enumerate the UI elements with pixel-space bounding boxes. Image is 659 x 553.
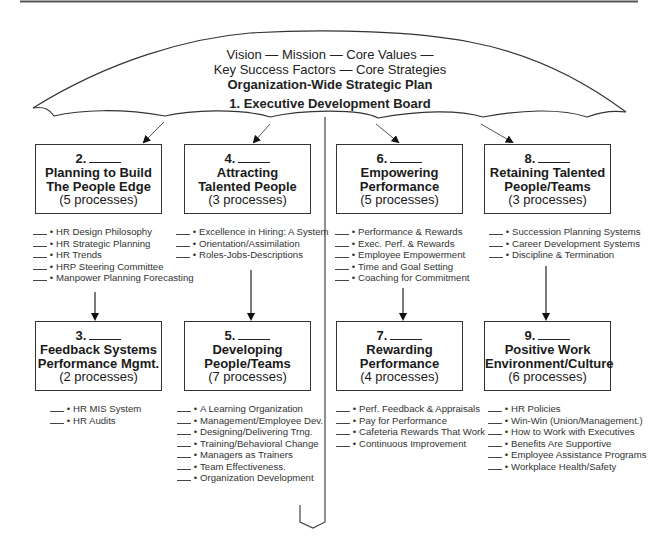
box-title-line-1: Developing: [185, 343, 310, 357]
checkbox-blank[interactable]: [488, 449, 502, 458]
box-5-developing: 5. Developing People/Teams (7 processes): [184, 321, 311, 391]
box-3-process-list: •HR MIS System •HR Audits: [50, 403, 141, 426]
checkbox-blank[interactable]: [177, 438, 191, 447]
list-item: •Team Effectiveness.: [177, 461, 323, 473]
checkbox-blank[interactable]: [336, 403, 350, 412]
list-item: •Exec. Perf. & Rewards: [335, 238, 469, 250]
checkbox-blank[interactable]: [33, 272, 47, 281]
list-item: •HRP Steering Committee: [33, 261, 194, 273]
blank-line[interactable]: [89, 151, 121, 163]
list-item: •Benefits Are Supportive: [488, 438, 646, 450]
list-item: •Orientation/Assimilation: [176, 238, 329, 250]
checkbox-blank[interactable]: [335, 249, 349, 258]
list-item: •Management/Employee Dev.: [177, 415, 323, 427]
checkbox-blank[interactable]: [176, 249, 190, 258]
blank-line[interactable]: [538, 151, 570, 163]
list-item: •A Learning Organization: [177, 403, 323, 415]
list-item: •Managers as Trainers: [177, 449, 323, 461]
checkbox-blank[interactable]: [489, 238, 503, 247]
umbrella-line-2: Key Success Factors — Core Strategies: [180, 62, 480, 77]
arrow-to-box-8: [481, 124, 512, 142]
checkbox-blank[interactable]: [336, 438, 350, 447]
checkbox-blank[interactable]: [489, 249, 503, 258]
list-item: •HR Audits: [50, 415, 141, 427]
box-title-line-1: Attracting: [185, 166, 310, 180]
box-title-line-2: Performance: [337, 180, 462, 194]
box-6-empowering: 6. Empowering Performance (5 processes): [336, 144, 463, 214]
box-2-planning: 2. Planning to Build The People Edge (5 …: [35, 144, 162, 214]
checkbox-blank[interactable]: [336, 415, 350, 424]
box-title-line-2: Talented People: [185, 180, 310, 194]
checkbox-blank[interactable]: [488, 415, 502, 424]
box-8-retaining: 8. Retaining Talented People/Teams (3 pr…: [484, 144, 611, 214]
checkbox-blank[interactable]: [50, 415, 64, 424]
umbrella-line-3: Organization-Wide Strategic Plan: [180, 77, 480, 92]
box-title-line-2: People/Teams: [485, 180, 610, 194]
checkbox-blank[interactable]: [33, 226, 47, 235]
umbrella-line-1: Vision — Mission — Core Values —: [180, 47, 480, 62]
list-item: •Employee Empowerment: [335, 249, 469, 261]
list-item: •Coaching for Commitment: [335, 272, 469, 284]
box-title-line-2: People/Teams: [185, 357, 310, 371]
box-3-feedback: 3. Feedback Systems Performance Mgmt. (2…: [35, 321, 162, 391]
list-item: •Manpower Planning Forecasting: [33, 272, 194, 284]
checkbox-blank[interactable]: [177, 415, 191, 424]
checkbox-blank[interactable]: [335, 261, 349, 270]
checkbox-blank[interactable]: [335, 272, 349, 281]
umbrella-text: Vision — Mission — Core Values — Key Suc…: [180, 47, 480, 111]
box-number: 8.: [525, 151, 536, 166]
list-item: •Performance & Rewards: [335, 226, 469, 238]
checkbox-blank[interactable]: [176, 226, 190, 235]
checkbox-blank[interactable]: [488, 426, 502, 435]
box-7-rewarding: 7. Rewarding Performance (4 processes): [336, 321, 463, 391]
box-5-process-list: •A Learning Organization •Management/Emp…: [177, 403, 323, 484]
box-title-line-2: The People Edge: [36, 180, 161, 194]
checkbox-blank[interactable]: [176, 238, 190, 247]
blank-line[interactable]: [390, 328, 422, 340]
box-title-line-2: Environment/Culture: [485, 357, 610, 371]
checkbox-blank[interactable]: [177, 426, 191, 435]
checkbox-blank[interactable]: [177, 403, 191, 412]
box-title-line-1: Feedback Systems: [36, 343, 161, 357]
checkbox-blank[interactable]: [177, 472, 191, 481]
checkbox-blank[interactable]: [177, 449, 191, 458]
list-item: •Training/Behavioral Change: [177, 438, 323, 450]
checkbox-blank[interactable]: [336, 426, 350, 435]
arrow-to-box-2: [144, 122, 164, 142]
list-item: •Discipline & Termination: [489, 249, 641, 261]
box-9-positive-work: 9. Positive Work Environment/Culture (6 …: [484, 321, 611, 391]
box-number: 7.: [377, 328, 388, 343]
checkbox-blank[interactable]: [489, 226, 503, 235]
list-item: •Excellence in Hiring: A System: [176, 226, 329, 238]
list-item: •Career Development Systems: [489, 238, 641, 250]
list-item: •Win-Win (Union/Management.): [488, 415, 646, 427]
arrow-to-box-6: [376, 124, 398, 142]
checkbox-blank[interactable]: [50, 403, 64, 412]
blank-line[interactable]: [238, 151, 270, 163]
checkbox-blank[interactable]: [33, 261, 47, 270]
process-count: (7 processes): [185, 370, 310, 384]
list-item: •Roles-Jobs-Descriptions: [176, 249, 329, 261]
checkbox-blank[interactable]: [33, 238, 47, 247]
checkbox-blank[interactable]: [177, 461, 191, 470]
list-item: •Succession Planning Systems: [489, 226, 641, 238]
list-item: •HR Policies: [488, 403, 646, 415]
blank-line[interactable]: [538, 328, 570, 340]
list-item: •HR MIS System: [50, 403, 141, 415]
process-count: (4 processes): [337, 370, 462, 384]
box-title-line-1: Retaining Talented: [485, 166, 610, 180]
checkbox-blank[interactable]: [33, 249, 47, 258]
checkbox-blank[interactable]: [488, 461, 502, 470]
checkbox-blank[interactable]: [488, 403, 502, 412]
blank-line[interactable]: [238, 328, 270, 340]
blank-line[interactable]: [390, 151, 422, 163]
blank-line[interactable]: [89, 328, 121, 340]
checkbox-blank[interactable]: [335, 238, 349, 247]
checkbox-blank[interactable]: [335, 226, 349, 235]
box-title-line-1: Planning to Build: [36, 166, 161, 180]
list-item: •Pay for Performance: [336, 415, 485, 427]
checkbox-blank[interactable]: [488, 438, 502, 447]
box-number: 6.: [377, 151, 388, 166]
box-2-process-list: •HR Design Philosophy •HR Strategic Plan…: [33, 226, 194, 284]
box-number: 3.: [76, 328, 87, 343]
